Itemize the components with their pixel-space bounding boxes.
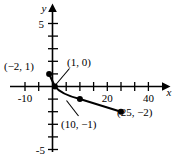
y-axis-arrowhead [48,4,57,13]
label-1-0: (1, 0) [67,56,91,69]
leader-line-1-0 [56,69,70,86]
x-tick-label--10: -10 [18,92,33,104]
y-axis [48,4,57,153]
x-tick-label-40: 40 [143,92,155,104]
x-tick-label-20: 20 [102,92,114,104]
y-tick-label--5: -5 [36,144,46,156]
coordinate-plane-plot: -10 20 40 5 -5 x y (−2, 1) (1, 0) (10, −… [0,0,178,162]
label-neg2-1: (−2, 1) [4,60,34,73]
leader-line-10-neg1 [67,101,79,117]
label-10-neg1: (10, −1) [61,118,97,131]
data-point-1-0 [52,84,58,90]
data-point-10-neg1 [77,96,83,102]
y-axis-label: y [41,2,47,14]
label-25-neg2: (25, −2) [117,106,153,119]
graph-figure: -10 20 40 5 -5 x y (−2, 1) (1, 0) (10, −… [0,0,178,162]
x-axis [10,82,171,91]
x-axis-label: x [166,86,172,98]
data-point-neg2-1 [46,71,52,77]
y-tick-label-5: 5 [39,18,45,30]
